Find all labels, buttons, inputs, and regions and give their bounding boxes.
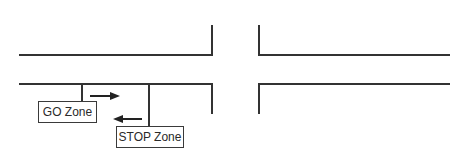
road-right-top-edge (259, 26, 449, 55)
stop-zone-label: STOP Zone (116, 126, 184, 148)
intersection-diagram (0, 0, 454, 156)
arrow-right-icon (90, 92, 120, 100)
road-left-top-edge (20, 26, 212, 55)
go-zone-label: GO Zone (38, 101, 97, 123)
road-right-bottom-edge (259, 84, 449, 113)
arrow-left-icon (113, 115, 142, 123)
